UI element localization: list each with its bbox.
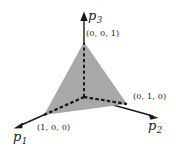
- vertex-label-100: (1, 0, 0): [37, 123, 70, 131]
- simplex-triangle: [44, 42, 127, 115]
- axis-label-p2: p2: [148, 119, 162, 132]
- axis-label-p3-base: p: [88, 8, 96, 23]
- vertex-label-010: (0, 1, 0): [133, 92, 166, 100]
- axis-label-p1: p1: [13, 130, 27, 143]
- axis-label-p2-subscript: 2: [157, 125, 162, 135]
- axis-label-p2-base: p: [148, 118, 156, 133]
- axis-label-p1-base: p: [13, 129, 21, 144]
- axis-label-p1-subscript: 1: [22, 136, 27, 146]
- axis-label-p3-subscript: 3: [97, 15, 102, 25]
- vertex-label-001: (0, 0, 1): [86, 29, 119, 37]
- axis-label-p3: p3: [88, 9, 102, 22]
- simplex-figure: p3 p1 p2 (0, 0, 1) (1, 0, 0) (0, 1, 0): [0, 0, 176, 151]
